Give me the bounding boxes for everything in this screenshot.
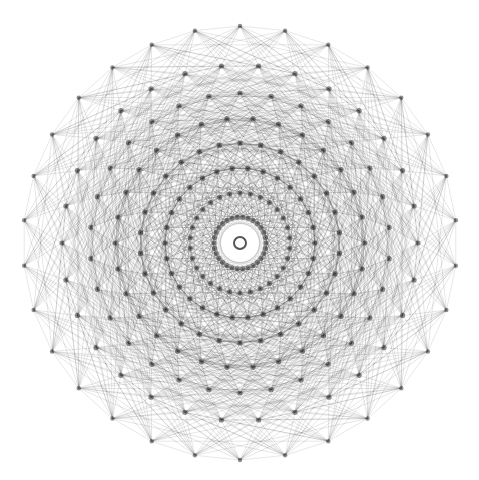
vertex: [193, 453, 197, 457]
vertex: [126, 341, 131, 346]
vertex: [208, 200, 213, 205]
vertex: [240, 266, 245, 271]
vertex: [380, 287, 385, 292]
vertex: [352, 291, 357, 296]
vertex: [200, 207, 205, 212]
vertex: [112, 240, 117, 245]
vertex: [169, 210, 174, 215]
vertex: [454, 263, 458, 267]
vertex: [163, 173, 168, 178]
vertex: [357, 373, 362, 378]
vertex: [326, 86, 331, 91]
vertex: [151, 290, 156, 295]
vertex: [412, 203, 417, 208]
vertex: [333, 209, 338, 214]
vertex: [326, 119, 331, 124]
vertex: [400, 313, 405, 318]
vertex: [258, 256, 263, 261]
vertex: [283, 29, 287, 33]
vertex: [312, 173, 317, 178]
vertex: [224, 263, 229, 268]
vertex: [281, 265, 286, 270]
vertex: [267, 200, 272, 205]
vertex: [162, 240, 167, 245]
vertex: [230, 315, 235, 320]
vertex: [360, 266, 365, 271]
vertex: [237, 140, 242, 145]
vertex: [212, 246, 217, 251]
vertex: [142, 271, 147, 276]
vertex: [220, 260, 225, 265]
vertex: [136, 314, 141, 319]
vertex: [250, 263, 255, 268]
vertex: [365, 65, 369, 69]
vertex: [278, 332, 283, 337]
vertex: [306, 271, 311, 276]
vertex: [214, 169, 219, 174]
vertex: [208, 281, 213, 286]
vertex: [224, 116, 229, 121]
vertex: [193, 29, 197, 33]
vertex: [269, 94, 274, 99]
vertex: [306, 210, 311, 215]
vertex: [367, 165, 372, 170]
vertex: [250, 116, 255, 121]
vertex: [150, 439, 154, 443]
vertex: [324, 290, 329, 295]
vertex: [278, 149, 283, 154]
vertex: [194, 215, 199, 220]
vertex: [362, 240, 367, 245]
vertex: [287, 246, 292, 251]
vertex: [169, 271, 174, 276]
center-hub: [234, 237, 246, 249]
vertex: [248, 289, 253, 294]
vertex: [212, 235, 217, 240]
vertex: [367, 315, 372, 320]
vertex: [214, 251, 219, 256]
vertex: [250, 365, 255, 370]
vertex: [123, 190, 128, 195]
vertex: [59, 240, 64, 245]
vertex: [333, 271, 338, 276]
vertex: [179, 321, 184, 326]
vertex: [149, 362, 154, 367]
vertex: [255, 221, 260, 226]
vertex: [187, 185, 192, 190]
vertex: [118, 108, 123, 113]
vertex: [245, 216, 250, 221]
vertex: [292, 71, 297, 76]
vertex: [63, 277, 68, 282]
vertex: [138, 230, 143, 235]
vertex: [415, 240, 420, 245]
polytope-graph: [0, 0, 479, 480]
vertex: [337, 251, 342, 256]
vertex: [230, 166, 235, 171]
vertex: [115, 266, 120, 271]
vertex: [387, 256, 392, 261]
vertex: [219, 63, 224, 68]
vertex: [175, 132, 180, 137]
vertex: [237, 290, 242, 295]
vertex: [22, 263, 26, 267]
vertex: [138, 251, 143, 256]
vertex: [276, 359, 281, 364]
vertex: [190, 225, 195, 230]
vertex: [75, 168, 80, 173]
vertex: [412, 277, 417, 282]
vertex: [95, 194, 100, 199]
vertex: [237, 90, 242, 95]
vertex: [261, 251, 266, 256]
vertex: [154, 333, 159, 338]
vertex: [288, 296, 293, 301]
vertex: [256, 63, 261, 68]
vertex: [200, 175, 205, 180]
vertex: [176, 103, 181, 108]
vertex: [298, 196, 303, 201]
vertex: [150, 43, 154, 47]
polytope-diagram: [0, 0, 479, 480]
vertex: [206, 387, 211, 392]
vertex: [296, 159, 301, 164]
vertex: [245, 265, 250, 270]
vertex: [349, 341, 354, 346]
vertex: [88, 225, 93, 230]
